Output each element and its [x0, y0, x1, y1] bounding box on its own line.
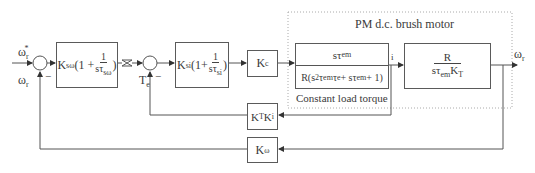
limiter-symbol [122, 60, 132, 66]
converter-gain-block: Kc [247, 50, 278, 77]
motor-title: PM d.c. brush motor [355, 17, 454, 32]
minus-sign-1: − [45, 71, 51, 82]
electrical-transfer-block: sτem R(s2τemτe + sτem + 1) [295, 43, 389, 89]
current-node-label: i [391, 53, 394, 62]
electrical-denominator: R(s2τemτe + sτem + 1) [301, 66, 383, 88]
reference-speed-label: ωr* [18, 45, 29, 61]
summing-junction-2 [143, 56, 157, 70]
mechanical-transfer-block: RsτemKT [404, 43, 491, 89]
current-feedback-block: KTKi [247, 103, 278, 130]
electrical-numerator: sτem [296, 44, 388, 66]
output-speed-label: ωr [514, 48, 525, 63]
speed-feedback-block: Kω [247, 137, 278, 163]
current-controller-block: Ksi(1+ 1sτsi) [175, 42, 229, 88]
speed-controller-block: Ksω(1 + 1sτsω) [56, 42, 118, 88]
constant-load-torque-note: Constant load torque [296, 93, 388, 104]
summing-junction-1 [33, 56, 47, 70]
torque-feedback-label: Te [139, 74, 150, 89]
minus-sign-2: − [155, 71, 161, 82]
feedback-speed-label: ωr [18, 74, 29, 89]
